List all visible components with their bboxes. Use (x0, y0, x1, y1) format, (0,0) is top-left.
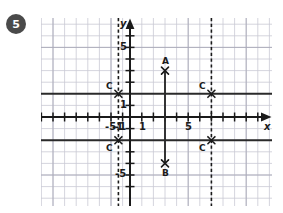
point-label-c-upper-right: C (199, 82, 206, 91)
coordinate-grid: y x -5 -1 1 5 5 1 -1 -5 A B C C C C (41, 18, 272, 206)
question-number-text: 5 (12, 19, 20, 30)
x-tick-label-5: 5 (185, 122, 192, 132)
point-label-c-lower-right: C (199, 144, 206, 153)
worksheet-figure: 5 (0, 0, 283, 213)
point-label-a: A (162, 57, 169, 66)
point-label-b: B (162, 169, 169, 178)
grid-vertical-lines (41, 18, 269, 206)
y-tick-label-1: 1 (120, 100, 127, 110)
point-label-c-upper-left: C (106, 82, 113, 91)
x-tick-label-1: 1 (139, 122, 146, 132)
question-number-badge: 5 (6, 14, 26, 34)
y-tick-label-5: 5 (120, 42, 127, 52)
graph-svg (41, 18, 272, 206)
grid-horizontal-lines (41, 24, 272, 198)
point-label-c-lower-left: C (106, 144, 113, 153)
grid-major-lines (41, 18, 272, 206)
y-axis-label: y (120, 19, 127, 29)
y-tick-label-minus5: -5 (115, 169, 126, 179)
y-tick-label-minus1: -1 (115, 122, 126, 132)
x-axis-label: x (264, 122, 270, 132)
